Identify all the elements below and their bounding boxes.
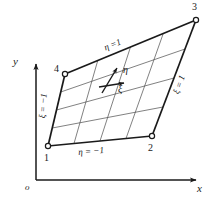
origin-label: o <box>25 183 30 192</box>
edge-4-1-left <box>48 74 65 146</box>
node-marker-3 <box>193 17 198 22</box>
node-label-1: 1 <box>44 153 49 163</box>
node-marker-2 <box>149 133 154 138</box>
edge-3-4-top <box>65 20 196 74</box>
x-axis-label: x <box>197 183 202 194</box>
node-label-3: 3 <box>192 2 197 12</box>
figure-canvas <box>0 0 215 205</box>
node-marker-1 <box>45 143 50 148</box>
node-label-2: 2 <box>148 143 153 153</box>
xi-symbol-label: ξ <box>118 84 122 94</box>
node-marker-4 <box>62 71 67 76</box>
edge-2-3-right <box>152 20 196 136</box>
grid-line-xi-1 <box>74 61 98 144</box>
grid-line-xi-2 <box>100 47 131 141</box>
node-label-4: 4 <box>54 64 59 74</box>
isoparametric-element-figure: y x o 1 2 3 4 η = −1 η =1 ξ = −1 ξ = 1 η… <box>0 0 215 205</box>
eta-symbol-label: η <box>123 65 128 75</box>
y-axis-label: y <box>13 56 18 67</box>
eta-direction-arrow <box>102 68 117 93</box>
edge-label-xi-minus-one: ξ = −1 <box>38 93 49 119</box>
